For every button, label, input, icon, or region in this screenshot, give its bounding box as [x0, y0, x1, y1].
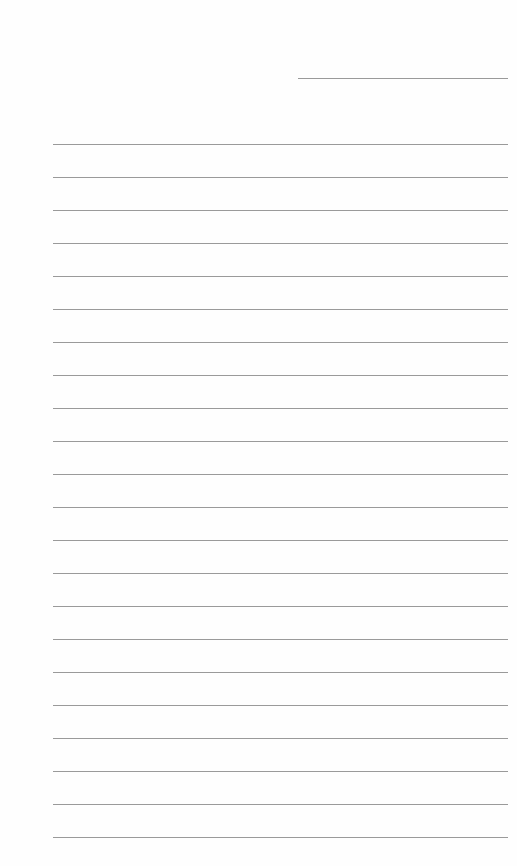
- date-line: [298, 78, 508, 79]
- ruled-line: [53, 441, 508, 442]
- ruled-line: [53, 177, 508, 178]
- ruled-line: [53, 705, 508, 706]
- ruled-line: [53, 639, 508, 640]
- ruled-line: [53, 837, 508, 838]
- lined-paper-page: [0, 0, 517, 866]
- ruled-line: [53, 771, 508, 772]
- ruled-line: [53, 309, 508, 310]
- ruled-line: [53, 507, 508, 508]
- ruled-line: [53, 738, 508, 739]
- ruled-line: [53, 210, 508, 211]
- ruled-line: [53, 375, 508, 376]
- ruled-line: [53, 144, 508, 145]
- ruled-line: [53, 276, 508, 277]
- ruled-line: [53, 573, 508, 574]
- ruled-line: [53, 243, 508, 244]
- ruled-line: [53, 606, 508, 607]
- ruled-line: [53, 408, 508, 409]
- ruled-line: [53, 342, 508, 343]
- ruled-line: [53, 540, 508, 541]
- ruled-line: [53, 474, 508, 475]
- ruled-line: [53, 672, 508, 673]
- ruled-line: [53, 804, 508, 805]
